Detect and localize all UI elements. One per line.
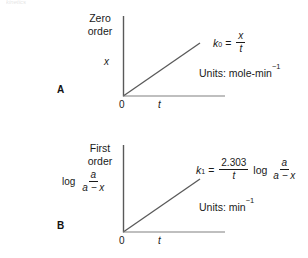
panel-b-eq-numerator: 2.303 <box>219 158 248 170</box>
panel-b-units-prefix: Units: <box>199 201 226 213</box>
panel-b-origin-label: 0 <box>119 235 125 246</box>
panel-zero-order: A Zero order x 0 t k0 = x t Units: mole-… <box>0 0 308 129</box>
panel-b-x-axis-label: t <box>158 235 161 246</box>
panel-b-eq-log-denominator: a − x <box>271 170 297 182</box>
panel-a-origin-label: 0 <box>119 99 125 110</box>
panel-b-data-line <box>124 179 200 232</box>
panel-a-eq-denominator: t <box>237 43 244 55</box>
panel-b-y-denominator: a − x <box>80 182 106 194</box>
panel-a-eq-subscript: 0 <box>218 41 222 48</box>
panel-b-eq-fraction: 2.303 t <box>219 158 248 181</box>
panel-a-eq-fraction: x t <box>236 31 245 54</box>
panel-a-eq-numerator: x <box>236 31 245 43</box>
panel-a-equation: k0 = x t <box>213 31 247 54</box>
panel-b-units-value: min <box>229 201 246 213</box>
panel-a-units: Units: mole-min−1 <box>199 65 281 79</box>
kinetics-figure: kinetics A Zero order x 0 t k0 = x t Uni… <box>0 0 308 258</box>
panel-b-y-axis-label: log a a − x <box>62 170 108 193</box>
panel-a-x-axis-label: t <box>158 99 161 110</box>
panel-b-eq-log-fraction: a a − x <box>271 158 297 181</box>
panel-a-units-prefix: Units: <box>199 67 226 79</box>
panel-b-eq-subscript: 1 <box>201 168 205 175</box>
panel-a-data-line <box>124 43 200 96</box>
panel-a-units-value: mole-min <box>229 67 272 79</box>
panel-b-eq-log-word: log <box>253 164 267 176</box>
panel-b-eq-denominator: t <box>230 170 237 182</box>
panel-b-eq-log-numerator: a <box>280 158 290 170</box>
panel-b-eq-equals: = <box>208 164 214 176</box>
panel-b-y-fraction: a a − x <box>80 170 106 193</box>
panel-b-units-exponent: −1 <box>246 196 255 205</box>
panel-b-y-log-word: log <box>62 176 75 187</box>
panel-b-y-numerator: a <box>89 170 99 182</box>
panel-b-axes <box>0 129 308 258</box>
panel-b-units: Units: min−1 <box>199 199 254 213</box>
panel-b-equation: k1 = 2.303 t log a a − x <box>196 158 299 181</box>
panel-a-units-exponent: −1 <box>272 62 281 71</box>
panel-a-y-axis-label: x <box>104 56 109 67</box>
panel-a-eq-equals: = <box>225 37 231 49</box>
panel-first-order: B First order log a a − x 0 t k1 = 2.303… <box>0 129 308 258</box>
